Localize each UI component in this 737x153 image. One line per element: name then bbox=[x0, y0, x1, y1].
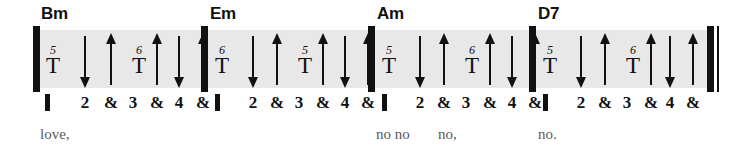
thumb-tee-glyph: T bbox=[292, 56, 318, 76]
lyric-text: love, bbox=[40, 126, 70, 143]
strum-up-arrow-icon bbox=[270, 33, 284, 85]
thumb-stroke-symbol: 5T bbox=[40, 44, 66, 76]
strum-down-arrow-icon bbox=[338, 36, 352, 88]
chord-label-em[interactable]: Em bbox=[210, 4, 236, 24]
beat-label-and: & bbox=[527, 93, 543, 113]
beat-label-number: 3 bbox=[125, 93, 141, 113]
beat-label-number: 4 bbox=[662, 93, 678, 113]
strum-down-arrow-icon bbox=[505, 36, 519, 88]
beat-label-and: & bbox=[269, 93, 285, 113]
thumb-stroke-symbol: 5T bbox=[537, 44, 563, 76]
strum-up-arrow-icon bbox=[686, 33, 700, 85]
beat-label-and: & bbox=[482, 93, 498, 113]
guitar-strum-notation-sheet: Bm5T6T2&3&4&love,Em6T5T2&3&4&Am5T6T2&3&4… bbox=[0, 0, 737, 153]
strum-up-arrow-icon bbox=[437, 33, 451, 85]
strum-down-arrow-icon bbox=[172, 36, 186, 88]
barline-measure-4 bbox=[529, 26, 536, 92]
beat-label-number: 2 bbox=[77, 93, 93, 113]
strum-down-arrow-icon bbox=[246, 36, 260, 88]
beat-label-and: & bbox=[315, 93, 331, 113]
beat-label-and: & bbox=[360, 93, 376, 113]
beat-label-number: 2 bbox=[245, 93, 261, 113]
strum-down-arrow-icon bbox=[78, 36, 92, 88]
thumb-stroke-symbol: 6T bbox=[126, 44, 152, 76]
beat-downbeat-marker bbox=[543, 94, 548, 111]
lyric-text: no, bbox=[438, 126, 457, 143]
beat-label-and: & bbox=[103, 93, 119, 113]
barline-measure-1 bbox=[33, 26, 40, 92]
strum-down-arrow-icon bbox=[574, 36, 588, 88]
end-barline-thin bbox=[717, 26, 719, 92]
beat-downbeat-marker bbox=[45, 94, 50, 111]
strum-up-arrow-icon bbox=[483, 33, 497, 85]
thumb-tee-glyph: T bbox=[126, 56, 152, 76]
strum-up-arrow-icon bbox=[316, 33, 330, 85]
chord-label-am[interactable]: Am bbox=[377, 4, 404, 24]
beat-downbeat-marker bbox=[215, 94, 220, 111]
beat-label-and: & bbox=[149, 93, 165, 113]
strum-up-arrow-icon bbox=[644, 33, 658, 85]
beat-label-number: 3 bbox=[619, 93, 635, 113]
beat-label-and: & bbox=[643, 93, 659, 113]
beat-label-number: 3 bbox=[291, 93, 307, 113]
beat-label-number: 3 bbox=[458, 93, 474, 113]
thumb-tee-glyph: T bbox=[40, 56, 66, 76]
beat-label-and: & bbox=[597, 93, 613, 113]
lyric-text: no no bbox=[376, 126, 410, 143]
beat-downbeat-marker bbox=[382, 94, 387, 111]
thumb-tee-glyph: T bbox=[620, 56, 646, 76]
strum-up-arrow-icon bbox=[104, 33, 118, 85]
lyric-text: no. bbox=[538, 126, 557, 143]
end-barline-thick bbox=[707, 26, 714, 92]
thumb-tee-glyph: T bbox=[459, 56, 485, 76]
strum-up-arrow-icon bbox=[150, 33, 164, 85]
strum-up-arrow-icon bbox=[598, 33, 612, 85]
strum-down-arrow-icon bbox=[663, 36, 677, 88]
strum-down-arrow-icon bbox=[413, 36, 427, 88]
beat-label-number: 4 bbox=[504, 93, 520, 113]
thumb-stroke-symbol: 6T bbox=[209, 44, 235, 76]
chord-label-d7[interactable]: D7 bbox=[538, 4, 559, 24]
beat-label-number: 2 bbox=[573, 93, 589, 113]
thumb-stroke-symbol: 5T bbox=[292, 44, 318, 76]
thumb-tee-glyph: T bbox=[209, 56, 235, 76]
barline-measure-2 bbox=[201, 26, 208, 92]
chord-label-bm[interactable]: Bm bbox=[41, 4, 68, 24]
beat-label-number: 2 bbox=[412, 93, 428, 113]
beat-label-number: 4 bbox=[337, 93, 353, 113]
beat-label-and: & bbox=[195, 93, 211, 113]
thumb-tee-glyph: T bbox=[376, 56, 402, 76]
beat-label-and: & bbox=[436, 93, 452, 113]
barline-measure-3 bbox=[368, 26, 375, 92]
thumb-stroke-symbol: 5T bbox=[376, 44, 402, 76]
thumb-stroke-symbol: 6T bbox=[459, 44, 485, 76]
beat-label-and: & bbox=[685, 93, 701, 113]
beat-label-number: 4 bbox=[171, 93, 187, 113]
thumb-stroke-symbol: 6T bbox=[620, 44, 646, 76]
thumb-tee-glyph: T bbox=[537, 56, 563, 76]
